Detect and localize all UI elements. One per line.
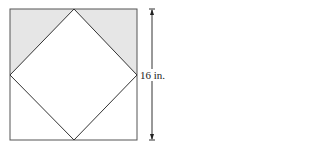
arrow-up-icon [150,9,154,15]
arrow-down-icon [150,134,154,140]
dimension-label: 16 in. [139,69,166,81]
